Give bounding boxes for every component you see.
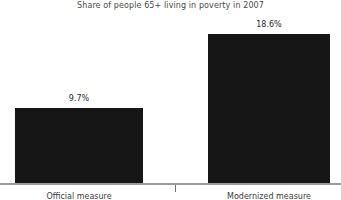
- poverty-share-bar-chart: Share of people 65+ living in poverty in…: [0, 0, 341, 200]
- category-label-modernized-measure: Modernized measure: [227, 192, 311, 200]
- bar-official-measure: [15, 108, 143, 183]
- plot-area: 9.7% 18.6%: [0, 0, 341, 183]
- bar-value-label-official: 9.7%: [19, 94, 139, 103]
- bar-value-label-modernized: 18.6%: [209, 20, 329, 29]
- x-axis-tick: [175, 185, 176, 192]
- bar-modernized-measure: [208, 34, 330, 183]
- x-axis-line: [0, 183, 341, 185]
- category-label-official-measure: Official measure: [46, 192, 111, 200]
